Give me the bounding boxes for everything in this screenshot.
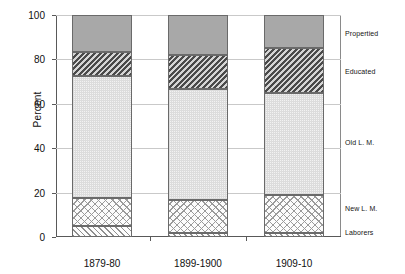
segment-old-lm-1879-80[interactable]: [72, 76, 132, 198]
segment-laborers-1909-10[interactable]: [264, 233, 324, 237]
y-axis-line: [56, 15, 57, 237]
y-tick-label-100: 100: [28, 10, 45, 21]
x-tick-mark-1: [150, 237, 151, 241]
plot-area: 100 80 60 40 20 0: [56, 15, 341, 237]
y-tick-mark-100: 100: [52, 15, 56, 16]
segment-propertied-1899-1900[interactable]: [168, 15, 228, 55]
y-tick-label-20: 20: [34, 187, 45, 198]
segment-old-lm-1909-10[interactable]: [264, 93, 324, 195]
segment-educated-1909-10[interactable]: [264, 48, 324, 92]
x-tick-label-1879-80: 1879-80: [84, 258, 121, 269]
legend: Propertied Educated Old L. M. New L. M. …: [345, 15, 405, 237]
x-tick-mark-2: [246, 237, 247, 241]
segment-new-lm-1899-1900[interactable]: [168, 200, 228, 233]
y-tick-label-0: 0: [39, 232, 45, 243]
segment-laborers-1899-1900[interactable]: [168, 233, 228, 237]
stacked-bar-chart: Percent 100 80 60 40 20 0: [0, 0, 405, 274]
y-tick-mark-20: 20: [52, 193, 56, 194]
plot-right-edge: [340, 15, 341, 237]
segment-propertied-1909-10[interactable]: [264, 15, 324, 48]
segment-laborers-1879-80[interactable]: [72, 226, 132, 237]
x-tick-label-1899-1900: 1899-1900: [174, 258, 222, 269]
segment-propertied-1879-80[interactable]: [72, 15, 132, 52]
y-tick-label-60: 60: [34, 98, 45, 109]
x-tick-label-1909-10: 1909-10: [276, 258, 313, 269]
y-tick-label-80: 80: [34, 54, 45, 65]
legend-label-educated: Educated: [345, 67, 375, 74]
y-tick-mark-40: 40: [52, 148, 56, 149]
segment-new-lm-1879-80[interactable]: [72, 198, 132, 226]
y-tick-mark-0: 0: [52, 237, 56, 238]
y-tick-mark-60: 60: [52, 104, 56, 105]
legend-label-new-lm: New L. M.: [345, 205, 377, 212]
y-tick-mark-80: 80: [52, 59, 56, 60]
segment-educated-1879-80[interactable]: [72, 52, 132, 76]
legend-label-laborers: Laborers: [345, 228, 373, 235]
segment-educated-1899-1900[interactable]: [168, 55, 228, 89]
legend-label-old-lm: Old L. M.: [345, 138, 374, 145]
y-axis-title: Percent: [32, 75, 43, 145]
y-tick-label-40: 40: [34, 143, 45, 154]
segment-new-lm-1909-10[interactable]: [264, 195, 324, 233]
legend-label-propertied: Propertied: [345, 29, 378, 36]
segment-old-lm-1899-1900[interactable]: [168, 89, 228, 199]
